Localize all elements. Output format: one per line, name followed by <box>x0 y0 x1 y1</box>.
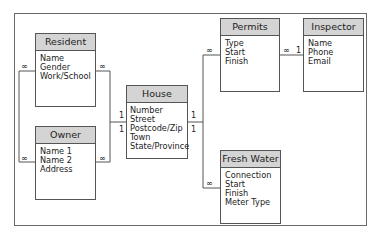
entity-title: Inspector <box>304 19 363 36</box>
entity-inspector[interactable]: Inspector Name Phone Email <box>303 18 364 92</box>
field: Address <box>40 165 91 174</box>
card-owner-left: ∞ <box>21 155 28 163</box>
card-owner-right: ∞ <box>99 155 106 163</box>
card-permits-left: ∞ <box>206 47 213 55</box>
entity-title: Owner <box>36 127 95 144</box>
card-resident-right: ∞ <box>99 63 106 71</box>
card-resident-left: ∞ <box>21 63 28 71</box>
field: State/Province <box>130 142 183 151</box>
entity-fields: Type Start Finish <box>221 36 279 66</box>
card-inspector-left: 1 <box>296 47 301 55</box>
line-permits-freshwater <box>203 55 220 188</box>
entity-title: Fresh Water <box>221 151 280 168</box>
entity-fresh-water[interactable]: Fresh Water Connection Start Finish Mete… <box>220 150 281 224</box>
entity-fields: Name Phone Email <box>304 36 363 66</box>
line-resident-owner-house <box>96 71 110 162</box>
field: Work/School <box>40 72 91 81</box>
entity-owner[interactable]: Owner Name 1 Name 2 Address <box>35 126 96 200</box>
entity-title: House <box>127 86 187 103</box>
card-permits-right: ∞ <box>283 47 290 55</box>
card-house-right-bottom: 1 <box>191 126 196 134</box>
entity-fields: Name 1 Name 2 Address <box>36 144 95 174</box>
entity-house[interactable]: House Number Street Postcode/Zip Town St… <box>126 85 188 159</box>
field: Finish <box>225 57 275 66</box>
entity-fields: Name Gender Work/School <box>36 51 95 81</box>
card-freshwater-left: ∞ <box>206 180 213 188</box>
field: Email <box>308 57 359 66</box>
line-resident-owner <box>19 71 35 162</box>
entity-fields: Number Street Postcode/Zip Town State/Pr… <box>127 103 187 151</box>
field: Meter Type <box>225 198 276 207</box>
card-house-left-bottom: 1 <box>119 126 124 134</box>
entity-title: Permits <box>221 19 279 36</box>
entity-resident[interactable]: Resident Name Gender Work/School <box>35 33 96 107</box>
entity-title: Resident <box>36 34 95 51</box>
card-house-right-top: 1 <box>191 112 196 120</box>
entity-fields: Connection Start Finish Meter Type <box>221 168 280 207</box>
entity-permits[interactable]: Permits Type Start Finish <box>220 18 280 92</box>
card-house-left-top: 1 <box>119 112 124 120</box>
